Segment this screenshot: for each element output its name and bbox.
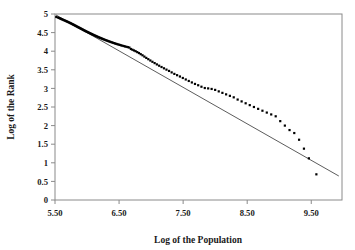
y-tick-label: 3.5 [37,65,48,75]
x-tick-label: 8.50 [240,208,255,218]
x-tick-label: 9.50 [304,208,319,218]
data-point [176,74,178,76]
y-tick-label: 0.5 [37,177,48,187]
data-point [168,70,170,72]
y-tick-label: 2 [44,121,48,131]
data-point [237,98,239,100]
y-axis-title: Log of the Rank [6,73,16,139]
y-tick-label: 1 [44,158,48,168]
data-point [233,96,235,98]
data-point [149,59,151,61]
data-point [261,110,263,112]
data-point [163,67,165,69]
x-axis-title: Log of the Population [154,235,243,245]
y-tick-label: 5 [44,9,48,19]
x-tick-label: 6.50 [112,208,127,218]
data-point [156,63,158,65]
x-tick-label: 5.50 [47,208,62,218]
y-tick-label: 4.5 [37,28,48,38]
y-tick-label: 3 [44,84,48,94]
data-point [160,66,162,68]
data-point [288,129,290,131]
data-point [197,84,199,86]
data-point [315,173,317,175]
data-point [188,80,190,82]
data-point [266,111,268,113]
data-point [270,113,272,115]
y-tick-label: 4 [44,46,49,56]
data-point [279,120,281,122]
data-point [275,115,277,117]
data-point [158,65,160,67]
data-point [182,77,184,79]
scatter-chart: 5.506.507.508.509.50 00.511.522.533.544.… [0,0,355,250]
data-point [147,58,149,60]
data-point [179,75,181,77]
y-tick-label: 1.5 [37,139,48,149]
data-point [241,100,243,102]
x-tick-label: 7.50 [176,208,191,218]
data-point [253,106,255,108]
data-point [284,125,286,127]
data-point [218,90,220,92]
data-point [165,69,167,71]
data-point [204,87,206,89]
data-point [257,108,259,110]
data-point [191,81,193,83]
data-point [143,55,145,57]
data-point [308,157,310,159]
data-point [145,57,147,59]
data-point [225,93,227,95]
data-point [221,92,223,94]
data-point [194,83,196,85]
data-point [214,89,216,91]
data-point [249,104,251,106]
data-point [151,61,153,63]
data-point [303,148,305,150]
data-point [171,71,173,73]
data-point [207,87,209,89]
data-point [185,78,187,80]
data-point [293,132,295,134]
y-tick-label: 0 [44,195,48,205]
data-point [173,73,175,75]
data-point [200,86,202,88]
data-point [298,139,300,141]
data-point [154,62,156,64]
data-point [229,95,231,97]
data-point [211,88,213,90]
data-point [245,102,247,104]
y-tick-label: 2.5 [37,102,48,112]
